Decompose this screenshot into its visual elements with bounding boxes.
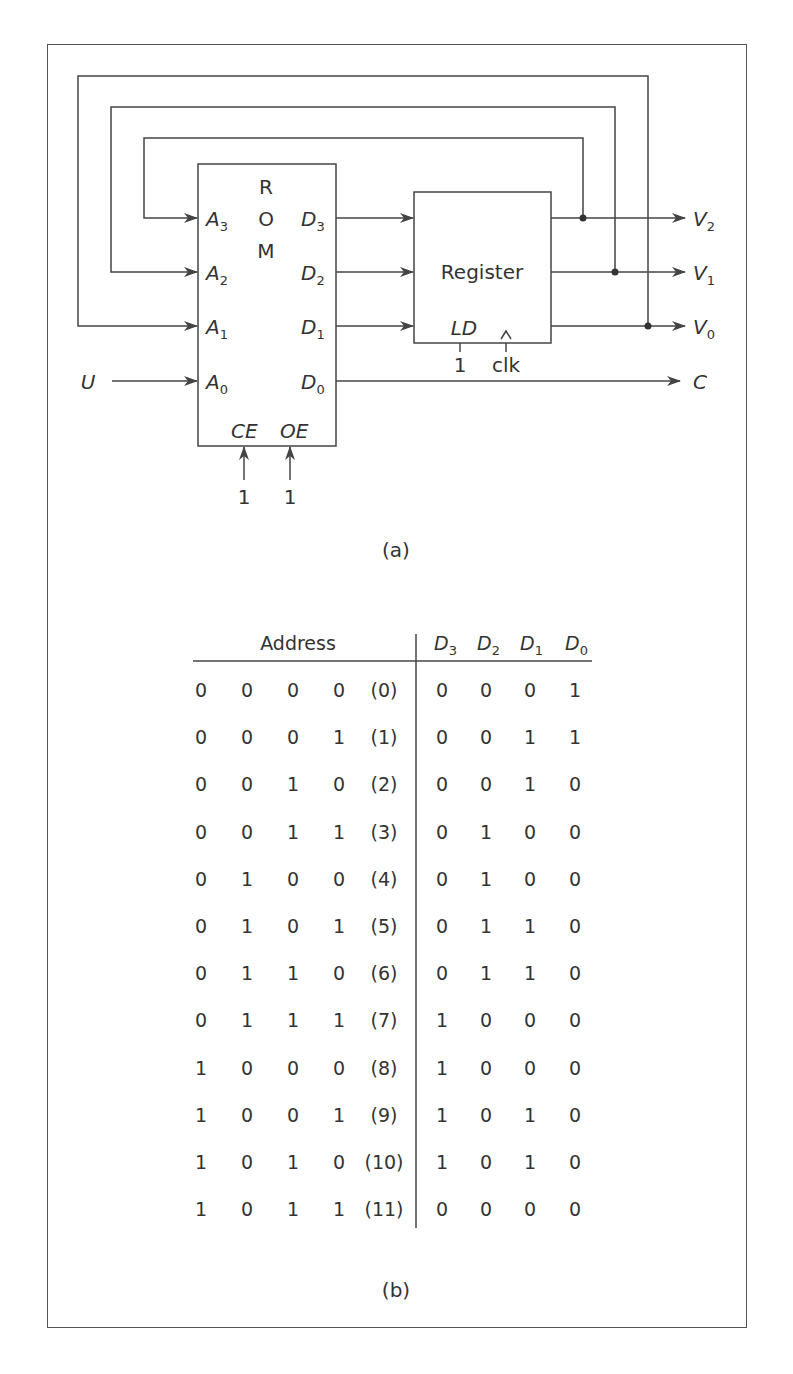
data-header-d0: D0	[565, 632, 588, 658]
data-bit-cell: 0	[436, 726, 448, 748]
address-bit-cell: 0	[241, 773, 253, 795]
rom-input-a3: A3	[204, 207, 228, 234]
address-bit-cell: 0	[287, 915, 299, 937]
address-index-cell: (9)	[371, 1104, 398, 1126]
data-bit-cell: 1	[436, 1057, 448, 1079]
address-bit-cell: 0	[333, 1057, 345, 1079]
rom-title-o: O	[258, 207, 274, 231]
data-bit-cell: 0	[524, 1009, 536, 1031]
data-bit-cell: 0	[480, 1104, 492, 1126]
rom-input-a2: A2	[204, 261, 228, 288]
junction-dot-v0	[645, 323, 652, 330]
address-bit-cell: 1	[241, 868, 253, 890]
output-c: C	[693, 370, 707, 394]
caption-a: (a)	[382, 538, 410, 562]
data-bit-cell: 0	[436, 962, 448, 984]
data-bit-cell: 0	[436, 679, 448, 701]
address-index-cell: (8)	[371, 1057, 398, 1079]
address-bit-cell: 0	[195, 821, 207, 843]
address-index-cell: (4)	[371, 868, 398, 890]
output-v0: V0	[693, 315, 715, 342]
address-bit-cell: 0	[333, 679, 345, 701]
data-bit-cell: 0	[480, 679, 492, 701]
data-bit-cell: 0	[569, 1151, 581, 1173]
address-bit-cell: 1	[195, 1151, 207, 1173]
feedback-wire-v0	[78, 76, 648, 326]
data-bit-cell: 0	[569, 773, 581, 795]
address-bit-cell: 1	[287, 962, 299, 984]
address-bit-cell: 1	[241, 1009, 253, 1031]
address-bit-cell: 1	[287, 821, 299, 843]
data-bit-cell: 0	[569, 821, 581, 843]
data-bit-cell: 1	[436, 1009, 448, 1031]
data-bit-cell: 1	[480, 821, 492, 843]
address-bit-cell: 1	[195, 1104, 207, 1126]
address-index-cell: (5)	[371, 915, 398, 937]
address-bit-cell: 0	[195, 915, 207, 937]
address-bit-cell: 0	[241, 821, 253, 843]
address-index-cell: (1)	[371, 726, 398, 748]
table-row: 0001(1)0011	[195, 726, 581, 748]
output-v1: V1	[693, 261, 715, 288]
data-bit-cell: 1	[524, 962, 536, 984]
address-index-cell: (6)	[371, 962, 398, 984]
data-bit-cell: 0	[436, 868, 448, 890]
address-index-cell: (2)	[371, 773, 398, 795]
data-bit-cell: 0	[569, 962, 581, 984]
data-header-d3: D3	[434, 632, 457, 658]
data-bit-cell: 0	[436, 821, 448, 843]
address-bit-cell: 1	[333, 915, 345, 937]
address-bit-cell: 1	[333, 1104, 345, 1126]
data-bit-cell: 0	[569, 1057, 581, 1079]
data-bit-cell: 0	[436, 915, 448, 937]
table-row: 0100(4)0100	[195, 868, 581, 890]
data-bit-cell: 1	[524, 773, 536, 795]
data-bit-cell: 0	[569, 1104, 581, 1126]
address-bit-cell: 0	[333, 868, 345, 890]
data-bit-cell: 0	[480, 1198, 492, 1220]
oe-value: 1	[284, 485, 297, 509]
address-bit-cell: 1	[287, 1151, 299, 1173]
data-header-d2: D2	[477, 632, 500, 658]
address-index-cell: (11)	[364, 1198, 403, 1220]
rom-input-a1: A1	[204, 315, 228, 342]
address-bit-cell: 0	[241, 726, 253, 748]
address-index-cell: (0)	[371, 679, 398, 701]
data-bit-cell: 0	[480, 726, 492, 748]
address-bit-cell: 0	[241, 1057, 253, 1079]
data-bit-cell: 0	[480, 1151, 492, 1173]
address-bit-cell: 0	[287, 868, 299, 890]
data-bit-cell: 0	[569, 1009, 581, 1031]
data-bit-cell: 0	[480, 1009, 492, 1031]
data-bit-cell: 1	[480, 868, 492, 890]
data-bit-cell: 1	[436, 1104, 448, 1126]
data-bit-cell: 1	[524, 726, 536, 748]
data-bit-cell: 0	[480, 773, 492, 795]
data-bit-cell: 0	[524, 1198, 536, 1220]
address-bit-cell: 0	[287, 1104, 299, 1126]
data-bit-cell: 0	[524, 1057, 536, 1079]
address-index-cell: (7)	[371, 1009, 398, 1031]
address-bit-cell: 1	[241, 962, 253, 984]
output-v2: V2	[693, 207, 715, 234]
ce-value: 1	[238, 485, 251, 509]
rom-output-d2: D2	[301, 261, 325, 288]
address-bit-cell: 0	[333, 1151, 345, 1173]
address-bit-cell: 0	[287, 726, 299, 748]
register-ld-label: LD	[451, 316, 478, 340]
table-row: 0000(0)0001	[195, 679, 581, 701]
data-bit-cell: 1	[436, 1151, 448, 1173]
address-bit-cell: 0	[195, 868, 207, 890]
rom-output-d0: D0	[301, 370, 325, 397]
table-row: 1011(11)0000	[195, 1198, 581, 1220]
address-bit-cell: 1	[195, 1198, 207, 1220]
address-index-cell: (10)	[364, 1151, 403, 1173]
data-bit-cell: 0	[569, 1198, 581, 1220]
junction-dot-v1	[612, 269, 619, 276]
data-bit-cell: 0	[524, 868, 536, 890]
data-bit-cell: 0	[436, 1198, 448, 1220]
data-bit-cell: 1	[524, 1151, 536, 1173]
address-bit-cell: 1	[333, 1009, 345, 1031]
address-bit-cell: 0	[241, 679, 253, 701]
rom-title-m: M	[257, 239, 274, 263]
